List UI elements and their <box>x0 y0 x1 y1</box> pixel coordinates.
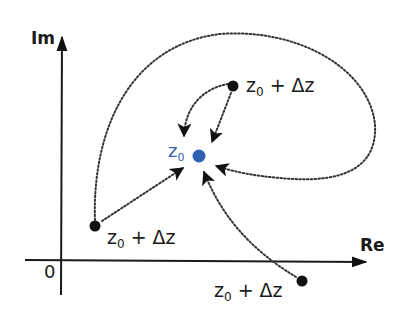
left-straight-path <box>102 168 183 221</box>
label-sub: 0 <box>117 237 125 251</box>
loop-path <box>95 33 375 220</box>
real-axis <box>25 260 366 262</box>
center-point-z0 <box>193 150 206 163</box>
approach-point-bottom-right <box>297 276 308 287</box>
label-sub: 0 <box>256 85 264 99</box>
label-main: z <box>107 226 117 248</box>
center-label-sub: 0 <box>177 151 184 164</box>
complex-plane-diagram <box>0 0 406 317</box>
imaginary-axis <box>61 37 62 295</box>
label-rest: + Δz <box>232 279 283 301</box>
top-curved-path <box>184 84 228 136</box>
label-sub: 0 <box>224 290 232 304</box>
imaginary-axis-label: Im <box>31 30 55 47</box>
label-rest: + Δz <box>264 74 315 96</box>
approach-point-left <box>90 221 101 232</box>
approach-label-bottom-right: z0 + Δz <box>214 281 283 303</box>
center-point-label: z0 <box>168 142 184 163</box>
top-straight-path <box>212 93 231 142</box>
approach-label-top: z0 + Δz <box>246 76 315 98</box>
real-axis-label: Re <box>360 237 385 254</box>
label-main: z <box>246 74 256 96</box>
approach-point-top <box>228 81 239 92</box>
origin-label: 0 <box>44 263 55 281</box>
label-rest: + Δz <box>125 226 176 248</box>
label-main: z <box>214 279 224 301</box>
approach-label-left: z0 + Δz <box>107 228 176 250</box>
